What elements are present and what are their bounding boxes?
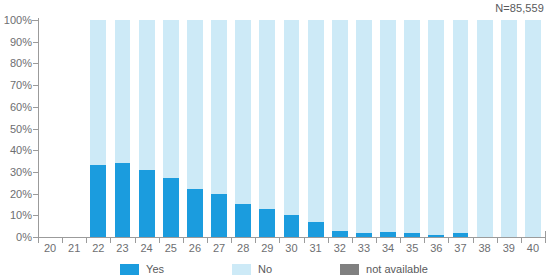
x-axis-tick-label: 36 [424,242,448,254]
x-axis-tick-label: 21 [62,242,86,254]
bar-segment-yes[interactable] [453,233,469,237]
x-axis-tick-label: 40 [521,242,545,254]
stacked-bar[interactable] [235,20,251,237]
bar-segment-yes[interactable] [356,233,372,237]
bar-segment-yes[interactable] [380,232,396,237]
bar-slot[interactable] [424,20,448,237]
bar-segment-no[interactable] [428,20,444,237]
stacked-bar[interactable] [187,20,203,237]
y-axis-tick-text: 10% [10,209,38,221]
legend-item-no[interactable]: No [232,263,272,275]
stacked-bar[interactable] [211,20,227,237]
x-axis-line [38,237,546,238]
bar-segment-yes[interactable] [235,204,251,237]
stacked-bar[interactable] [477,20,493,237]
stacked-bar[interactable] [501,20,517,237]
x-axis-tick-label: 35 [400,242,424,254]
x-axis-tick-label: 29 [255,242,279,254]
stacked-bar[interactable] [428,20,444,237]
bar-segment-yes[interactable] [187,189,203,237]
x-axis-tick-label: 25 [159,242,183,254]
x-axis-tick-label: 32 [328,242,352,254]
x-axis-tick-label: 37 [448,242,472,254]
stacked-bar[interactable] [90,20,106,237]
stacked-bar[interactable] [356,20,372,237]
y-axis-tick-label: 100% [0,14,38,26]
bar-slot[interactable] [497,20,521,237]
bar-segment-yes[interactable] [284,215,300,237]
bar-segment-yes[interactable] [308,222,324,237]
y-axis-tick-label: 80% [0,57,38,69]
bar-slot[interactable] [231,20,255,237]
bar-slot[interactable] [304,20,328,237]
bar-segment-no[interactable] [332,20,348,237]
bar-segment-no[interactable] [356,20,372,237]
legend-label-yes: Yes [146,263,164,275]
bar-segment-no[interactable] [525,20,541,237]
bar-segment-no[interactable] [453,20,469,237]
bar-segment-yes[interactable] [428,235,444,237]
stacked-bar[interactable] [380,20,396,237]
y-axis-tick-text: 40% [10,144,38,156]
legend-swatch-na [340,264,359,275]
bar-slot[interactable] [473,20,497,237]
y-axis-tick-label: 10% [0,209,38,221]
stacked-bar[interactable] [332,20,348,237]
bar-segment-no[interactable] [308,20,324,237]
plot-area [38,20,545,237]
legend-item-yes[interactable]: Yes [120,263,164,275]
bar-slot[interactable] [110,20,134,237]
stacked-bar[interactable] [284,20,300,237]
bar-slot[interactable] [328,20,352,237]
x-axis-tick-label: 27 [207,242,231,254]
bar-segment-no[interactable] [284,20,300,237]
bar-slot[interactable] [448,20,472,237]
bar-segment-yes[interactable] [139,170,155,237]
y-axis-tick-label: 50% [0,123,38,135]
x-axis-tick-label: 20 [38,242,62,254]
stacked-bar[interactable] [453,20,469,237]
stacked-bar[interactable] [139,20,155,237]
bar-slot[interactable] [86,20,110,237]
stacked-bar[interactable] [308,20,324,237]
bar-segment-yes[interactable] [211,194,227,237]
bar-slot[interactable] [279,20,303,237]
bar-slot[interactable] [183,20,207,237]
bar-segment-no[interactable] [380,20,396,237]
bar-slot[interactable] [352,20,376,237]
bar-segment-yes[interactable] [115,163,131,237]
bar-slot[interactable] [376,20,400,237]
stacked-bar[interactable] [404,20,420,237]
stacked-bar[interactable] [259,20,275,237]
y-axis-tick-label: 70% [0,79,38,91]
bar-segment-yes[interactable] [90,165,106,237]
bar-segment-no[interactable] [501,20,517,237]
bar-slot[interactable] [255,20,279,237]
stacked-bar[interactable] [163,20,179,237]
y-axis-tick-label: 40% [0,144,38,156]
bar-segment-yes[interactable] [259,209,275,237]
bar-slot[interactable] [400,20,424,237]
bar-slot[interactable] [207,20,231,237]
x-axis-tick-label: 28 [231,242,255,254]
bar-segment-no[interactable] [477,20,493,237]
bar-segment-no[interactable] [259,20,275,237]
legend-swatch-no [232,264,251,275]
x-axis-tick-label: 24 [135,242,159,254]
legend-item-na[interactable]: not available [340,263,428,275]
bar-slot[interactable] [521,20,545,237]
bar-slot[interactable] [159,20,183,237]
chart-legend: YesNonot available [0,258,548,280]
x-axis-tick-label: 39 [497,242,521,254]
stacked-bar[interactable] [115,20,131,237]
stacked-bar[interactable] [525,20,541,237]
bar-segment-no[interactable] [404,20,420,237]
y-axis-tick-label: 0% [0,231,38,243]
bar-slot[interactable] [135,20,159,237]
y-axis-tick-label: 60% [0,101,38,113]
bar-segment-yes[interactable] [404,233,420,237]
bar-segment-yes[interactable] [163,178,179,237]
x-axis-tick-label: 30 [279,242,303,254]
x-axis-tick-label: 26 [183,242,207,254]
bar-segment-yes[interactable] [332,231,348,238]
